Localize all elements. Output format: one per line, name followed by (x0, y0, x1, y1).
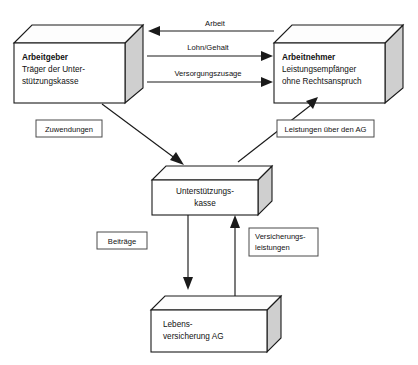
lohn-gehalt-arrowhead (261, 51, 273, 61)
node-arbeitgeber[interactable]: Arbeitgeber Träger der Unter- stützungsk… (14, 25, 143, 103)
edge-arbeit: Arbeit (148, 19, 274, 36)
versicherungsleistungen-label: Versicherungs- (255, 232, 306, 241)
arbeitnehmer-title: Arbeitnehmer (282, 53, 336, 62)
versorgungszusage-label: Versorgungszusage (174, 69, 241, 78)
lebensversicherung-top-face (151, 296, 281, 310)
diagram-svg: Arbeitgeber Träger der Unter- stützungsk… (0, 0, 418, 365)
beitraege-label: Beiträge (108, 237, 136, 246)
unterstuetzungskasse-line2: kasse (194, 199, 216, 208)
lebensversicherung-front-face (151, 310, 267, 352)
edge-zuwendungen: Zuwendungen (36, 104, 184, 165)
node-lebensversicherung-ag[interactable]: Lebens- versicherung AG (151, 296, 281, 352)
arbeitnehmer-top-face (274, 25, 403, 43)
edge-lohn-gehalt: Lohn/Gehalt (147, 43, 273, 61)
versorgungszusage-arrowhead (261, 77, 273, 87)
edge-versicherungsleistungen: Versicherungs- leistungen (230, 215, 318, 296)
arbeitnehmer-line2: Leistungsempfänger (282, 65, 356, 74)
diagram-canvas: Arbeitgeber Träger der Unter- stützungsk… (0, 0, 418, 365)
arbeitgeber-line3: stützungskasse (22, 77, 79, 86)
unterstuetzungskasse-front-face (152, 180, 258, 215)
lohn-gehalt-label: Lohn/Gehalt (187, 43, 229, 52)
zuwendungen-label: Zuwendungen (45, 125, 93, 134)
arbeitgeber-title: Arbeitgeber (22, 53, 69, 62)
arbeitnehmer-line3: ohne Rechtsanspruch (282, 77, 362, 86)
edge-versorgungszusage: Versorgungszusage (147, 69, 273, 87)
lebensversicherung-line2: versicherung AG (163, 332, 224, 341)
versicherungsleistungen-label-line2: leistungen (255, 243, 290, 252)
arbeit-arrowhead (148, 26, 160, 36)
zuwendungen-line (102, 104, 176, 159)
beitraege-arrowhead (183, 277, 193, 290)
arbeitgeber-line2: Träger der Unter- (22, 65, 85, 74)
node-arbeitnehmer[interactable]: Arbeitnehmer Leistungsempfänger ohne Rec… (274, 25, 403, 103)
unterstuetzungskasse-top-face (152, 166, 272, 180)
versicherungsleistungen-arrowhead (230, 215, 240, 228)
arbeit-label: Arbeit (205, 19, 226, 28)
node-unterstuetzungskasse[interactable]: Unterstützungs- kasse (152, 166, 272, 215)
edge-leistungen-ueber-den-ag: Leistungen über den AG (238, 97, 374, 162)
edge-beitraege: Beiträge (97, 215, 193, 290)
lebensversicherung-line1: Lebens- (163, 320, 193, 329)
zuwendungen-arrowhead (170, 152, 184, 165)
leistungen-ueber-ag-label: Leistungen über den AG (285, 125, 367, 134)
arbeitgeber-top-face (14, 25, 143, 43)
unterstuetzungskasse-line1: Unterstützungs- (176, 187, 234, 196)
